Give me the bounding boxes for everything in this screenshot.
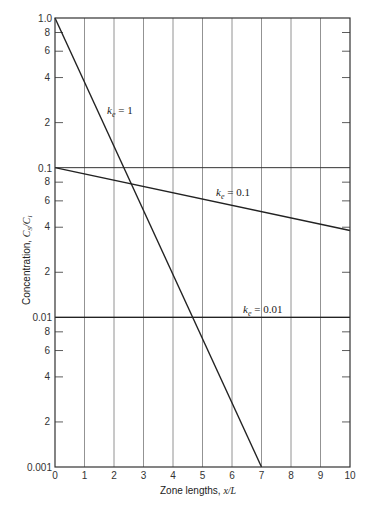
x-tick-label: 2 [111,470,117,481]
annotation-ke-0.1: ke = 0.1 [216,186,250,201]
x-tick-label: 4 [170,470,176,481]
y-minor-label: 8 [44,326,50,337]
y-tick-label: 0.1 [38,163,52,174]
y-minor-label: 2 [44,117,50,128]
y-minor-label: 2 [44,416,50,427]
x-tick-label: 0 [52,470,58,481]
grid [55,18,350,467]
y-minor-label: 4 [44,371,50,382]
chart: 0123456789100.0010.010.11.0246824682468 … [0,0,369,505]
ticks: 0123456789100.0010.010.11.0246824682468 [27,13,356,481]
x-tick-label: 6 [229,470,235,481]
series-line [55,18,262,467]
y-tick-label: 1.0 [38,13,52,24]
y-axis-label: Concentration, CS/Cl [21,216,34,305]
y-minor-label: 6 [44,345,50,356]
annotation-ke-0.01: ke = 0.01 [243,303,282,318]
x-tick-label: 5 [200,470,206,481]
y-tick-label: 0.001 [27,462,52,473]
annotation-ke-1: ke = 1 [107,104,133,119]
y-tick-label: 0.01 [33,312,53,323]
x-tick-label: 9 [318,470,324,481]
x-tick-label: 3 [141,470,147,481]
x-tick-label: 8 [288,470,294,481]
y-minor-label: 4 [44,221,50,232]
y-minor-label: 6 [44,45,50,56]
y-minor-label: 2 [44,266,50,277]
y-minor-label: 8 [44,27,50,38]
x-tick-label: 10 [344,470,356,481]
x-tick-label: 1 [82,470,88,481]
y-minor-label: 8 [44,176,50,187]
x-tick-label: 7 [259,470,265,481]
y-minor-label: 4 [44,72,50,83]
x-axis-label: Zone lengths, x/L [160,485,237,496]
y-minor-label: 6 [44,195,50,206]
